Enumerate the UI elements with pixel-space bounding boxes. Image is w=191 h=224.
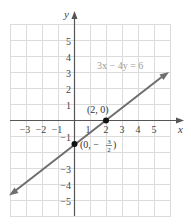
equation-line bbox=[9, 72, 169, 196]
x-tick: 5 bbox=[152, 124, 157, 135]
y-tick: −4 bbox=[60, 180, 71, 191]
y-tick: 1 bbox=[66, 100, 71, 111]
point-x-intercept bbox=[103, 118, 109, 124]
x-axis-label: x bbox=[177, 123, 183, 135]
y-axis-arrow-icon bbox=[72, 11, 78, 19]
point-label-suffix: ) bbox=[113, 139, 116, 151]
y-tick: −5 bbox=[60, 196, 71, 207]
y-axis-label: y bbox=[63, 8, 69, 20]
y-tick: 5 bbox=[66, 36, 71, 47]
equation-label: 3x − 4y = 6 bbox=[97, 60, 143, 71]
y-tick: 2 bbox=[66, 84, 71, 95]
x-tick: 2 bbox=[104, 124, 109, 135]
fraction-numerator: 3 bbox=[107, 138, 111, 146]
line-graph: y x 5 4 3 2 1 −1 −3 −4 −5 −3 −2 −1 1 2 3… bbox=[0, 0, 191, 224]
x-tick: 3 bbox=[120, 124, 125, 135]
point-label-x-intercept: (2, 0) bbox=[87, 104, 109, 116]
y-tick-labels: 5 4 3 2 1 −1 −3 −4 −5 bbox=[60, 36, 71, 207]
point-y-intercept bbox=[72, 141, 78, 147]
x-tick: −2 bbox=[36, 124, 47, 135]
x-tick: 4 bbox=[136, 124, 141, 135]
y-axis bbox=[72, 11, 78, 216]
x-axis bbox=[10, 118, 184, 124]
fraction-denominator: 2 bbox=[107, 146, 111, 154]
x-tick: −1 bbox=[52, 124, 63, 135]
point-label-y-intercept: (0, − 3 2 ) bbox=[80, 138, 116, 154]
x-tick: −3 bbox=[20, 124, 31, 135]
y-tick: −3 bbox=[60, 164, 71, 175]
y-tick: 3 bbox=[66, 68, 71, 79]
y-tick: 4 bbox=[66, 52, 71, 63]
point-label-prefix: (0, − bbox=[80, 139, 99, 151]
